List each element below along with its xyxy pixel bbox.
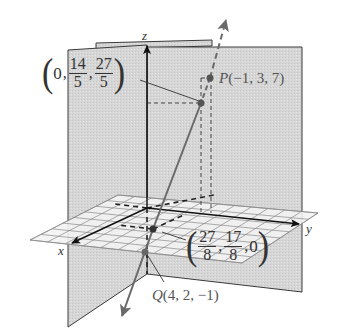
point-yz-intersection [198, 100, 205, 107]
fraction-27-5: 27 5 [95, 56, 113, 91]
point-P-coords: (−1, 3, 7) [228, 70, 284, 86]
x-axis-label: x [58, 244, 64, 257]
fraction-17-8: 17 8 [224, 229, 242, 264]
fraction-14-5: 14 5 [69, 56, 87, 91]
y-axis-label: y [306, 222, 312, 235]
point-Q [142, 249, 149, 256]
point-P [207, 75, 214, 82]
z-axis-label: z [142, 29, 147, 42]
fraction-27-8: 27 8 [198, 229, 216, 264]
yz-intersection-label: ( 0 , 14 5 , 27 5 ) [42, 56, 125, 91]
point-Q-label: Q(4, 2, −1) [152, 288, 219, 303]
point-xy-intersection [150, 226, 157, 233]
point-P-label: P(−1, 3, 7) [219, 71, 284, 86]
point-Q-name: Q [152, 287, 163, 303]
xy-intersection-label: ( 27 8 , 17 8 , 0 ) [186, 229, 269, 264]
point-Q-coords: (4, 2, −1) [163, 287, 219, 303]
figure-canvas: z x y P(−1, 3, 7) Q(4, 2, −1) ( 0 , 14 5… [0, 0, 344, 335]
point-P-name: P [219, 70, 228, 86]
